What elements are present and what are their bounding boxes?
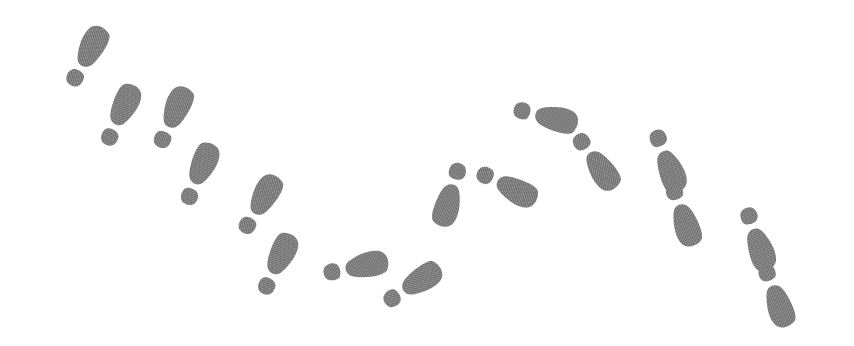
footprint-canvas: [0, 0, 854, 346]
footprint-scene: [0, 0, 854, 346]
background: [0, 0, 854, 346]
